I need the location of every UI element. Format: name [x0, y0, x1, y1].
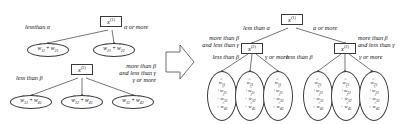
right-right-subtree-edge-label-1: less than β [286, 53, 312, 60]
right-tree-level2-left-label: x(2) [248, 44, 256, 52]
left-tree1-leaf-1: ^w11 + ^w21 [27, 43, 69, 57]
left-tree1-leaf-2: ^w21 + ^w22 [93, 43, 135, 57]
right-left-subtree-edge-label-1: less than β [186, 53, 239, 60]
right-right-subtree-edge-label-2-line2: and less than γ [358, 41, 395, 48]
right-tree-leaf-3: ^w11 +^w21 + ^w32 + ^w42 [263, 71, 293, 121]
right-left-subtree-edge-label-2-line2: and less than γ [186, 41, 239, 48]
left-tree2-root-node: x(2) [71, 64, 93, 75]
right-tree-leaf-1: ^w11 +^w21 + ^w31 + ^w41 [207, 71, 237, 121]
right-tree-level2-node-left: x(2) [241, 43, 263, 54]
figure-canvas: x(1) lessthan α α or more ^w11 + ^w21 ^w… [0, 0, 411, 124]
right-tree-leaf-4: ^w21 +^w22 + ^w31 + ^w41 [303, 71, 333, 121]
left-tree2-edge-label-3: γ or more [96, 76, 156, 83]
right-tree-level2-right-label: x(2) [341, 44, 349, 52]
right-tree-root-label: x(1) [288, 15, 296, 23]
right-tree-root-node: x(1) [281, 14, 303, 25]
right-tree-level2-node-right: x(2) [334, 43, 356, 54]
left-tree2-leaf-1: ^w31 + ^w41 [10, 95, 52, 109]
left-tree1-root-label: x(1) [107, 17, 115, 25]
right-tree-root-edge-label-2: α or more [313, 24, 337, 31]
right-tree-leaf-6: ^w21 +^w22 + ^w32 + ^w42 [359, 71, 389, 121]
left-tree1-edge-label-1: lessthan α [25, 23, 50, 30]
left-tree2-edge-label-1: less than β [16, 74, 42, 81]
right-right-subtree-edge-label-3: γ or more [359, 53, 383, 60]
right-left-subtree-edge-label-3: γ or more [265, 53, 289, 60]
transformation-arrow [166, 45, 194, 79]
left-tree1-root-node: x(1) [100, 16, 122, 27]
right-tree-leaf-2: ^w11 +^w21 + ^w32 + ^w41 [235, 71, 265, 121]
right-tree-root-edge-label-1: less than α [243, 24, 270, 31]
left-tree2-root-label: x(2) [78, 65, 86, 73]
left-tree2-leaf-3: ^w32 + ^w42 [112, 95, 154, 109]
right-tree-leaf-5: ^w21 +^w22 + ^w32 + ^w41 [331, 71, 361, 121]
left-tree1-edge-label-2: α or more [124, 23, 148, 30]
left-tree2-leaf-2: ^w32 + ^w41 [61, 95, 103, 109]
